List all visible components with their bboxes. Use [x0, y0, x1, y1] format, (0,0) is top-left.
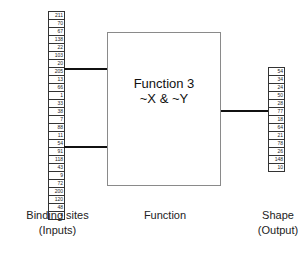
input-column-bottom: 7 88 11 54 91 118 43 9 72 200 120 48 4: [48, 115, 65, 219]
function-text: Function 3 ~X & ~Y: [107, 76, 221, 106]
inputs-label-line2: (Inputs): [10, 223, 105, 238]
inputs-label-line1: Binding sites: [10, 208, 105, 223]
output-wire: [221, 110, 268, 112]
output-label-line1: Shape: [250, 208, 306, 223]
function-title: Function 3: [107, 76, 221, 91]
output-cell: 10: [268, 163, 285, 172]
input-top-wire: [64, 68, 107, 70]
output-label-line2: (Output): [250, 223, 306, 238]
inputs-label: Binding sites (Inputs): [10, 208, 105, 238]
output-label: Shape (Output): [250, 208, 306, 238]
input-bottom-wire: [64, 146, 107, 148]
input-column-top: 211 70 67 138 22 103 20 205 13 66 1 33 3…: [48, 11, 65, 115]
function-box: [107, 32, 221, 186]
function-expression: ~X & ~Y: [107, 91, 221, 106]
function-label: Function: [130, 208, 200, 223]
output-column: 54 34 24 50 28 77 18 64 21 78 26 148 10: [268, 67, 285, 171]
